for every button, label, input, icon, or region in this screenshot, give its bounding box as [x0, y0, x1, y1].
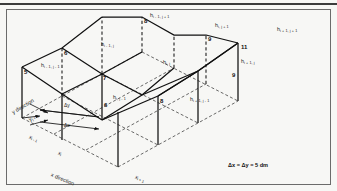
node-value-8-back-left: 8 [144, 18, 147, 24]
node-value-7-center: 7 [103, 75, 106, 81]
spacing-caption: Δx = Δy = 5 dm [228, 163, 268, 169]
node-value-9-mid-right: 9 [232, 72, 235, 78]
head-label-h-ip1-jp1: hi + 1, j + 1 [277, 27, 297, 33]
head-label-h-i-jp1: hi, j + 1 [215, 23, 229, 29]
head-label-h-i-jm1: hi, j - 1 [113, 95, 126, 101]
node-value-8-front-right: 8 [160, 98, 163, 104]
head-label-h-i-j: hi, j [163, 60, 170, 66]
node-value-5-front-left: 5 [24, 69, 27, 75]
figure-canvas: hi - 1, j + 1 8 hi, j + 1 9 hi + 1, j + … [0, 0, 337, 191]
node-value-6-mid-left: 6 [64, 50, 67, 56]
node-value-9-back-mid: 9 [208, 36, 211, 42]
head-label-h-ip1-j: hi + 1, j [241, 59, 255, 65]
delta-x-label: Δx [64, 123, 70, 128]
head-label-h-im1-j: hi - 1, j [101, 42, 114, 48]
head-label-h-ip1-jm1: hi + 1, j - 1 [190, 97, 209, 103]
head-label-h-im1-jm1: hi - 1, j - 1 [41, 63, 60, 69]
delta-y-label: Δy [64, 103, 70, 108]
node-value-11-back-right: 11 [241, 44, 247, 50]
ground-plane-dashed-grid [22, 52, 238, 167]
node-value-6-front-mid: 6 [104, 102, 107, 108]
head-label-h-im1-jp1: hi - 1, j + 1 [150, 13, 169, 19]
